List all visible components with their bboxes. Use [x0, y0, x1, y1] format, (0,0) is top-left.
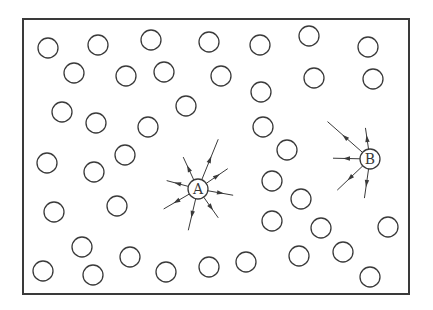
diagram-canvas: AB [0, 0, 433, 310]
particle-circle [138, 117, 158, 137]
particle-circle [72, 237, 92, 257]
arrowhead-icon [174, 182, 181, 186]
particle-circle [358, 37, 378, 57]
particle-circle [199, 257, 219, 277]
arrowhead-icon [343, 156, 350, 160]
particle-circle [304, 68, 324, 88]
particle-circle [116, 66, 136, 86]
particle-circle [141, 30, 161, 50]
particle-circles [33, 26, 398, 287]
particle-circle [311, 218, 331, 238]
particle-circle [199, 32, 219, 52]
particle-circle [84, 162, 104, 182]
particle-circle [176, 96, 196, 116]
particle-circle [363, 69, 383, 89]
arrowhead-icon [213, 174, 220, 180]
particle-circle [262, 211, 282, 231]
particle-circle [236, 252, 256, 272]
particle-circle [38, 38, 58, 58]
particle-circle [277, 140, 297, 160]
arrowhead-icon [187, 165, 192, 172]
particle-circle [37, 153, 57, 173]
particle-circle [64, 63, 84, 83]
particle-circle [378, 217, 398, 237]
particle-circle [120, 247, 140, 267]
particle-circle [250, 35, 270, 55]
arrowhead-icon [173, 198, 180, 203]
particle-label: B [365, 151, 375, 167]
arrowhead-icon [207, 203, 213, 210]
arrowhead-icon [365, 135, 369, 142]
particle-circle [83, 265, 103, 285]
particle-circle [211, 66, 231, 86]
particle-circle [251, 82, 271, 102]
particle-circle [107, 196, 127, 216]
arrowhead-icon [207, 156, 212, 163]
particle-circle [115, 145, 135, 165]
particle-diagram: AB [0, 0, 433, 310]
particle-circle [333, 242, 353, 262]
particle-circle [289, 246, 309, 266]
particle-circle [156, 262, 176, 282]
particle-circle [299, 26, 319, 46]
particle-circle [86, 113, 106, 133]
particle-circle [262, 171, 282, 191]
particle-circle [253, 117, 273, 137]
particle-label: A [192, 181, 204, 197]
particle-circle [360, 267, 380, 287]
labeled-particle-b: B [360, 149, 380, 169]
particle-circle [88, 35, 108, 55]
particle-circle [52, 102, 72, 122]
particle-circle [44, 202, 64, 222]
particle-circle [33, 261, 53, 281]
labeled-particle-a: A [188, 179, 208, 199]
particle-circle [154, 62, 174, 82]
particle-circle [291, 189, 311, 209]
arrowhead-icon [191, 211, 195, 218]
arrowhead-icon [365, 180, 369, 187]
